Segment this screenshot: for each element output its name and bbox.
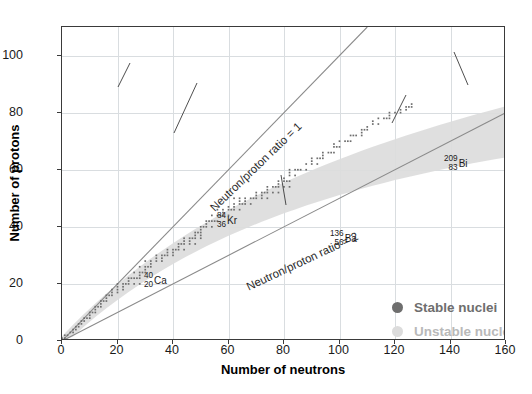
stable-nucleus-point [200, 235, 202, 237]
stable-nucleus-point [322, 152, 324, 154]
stable-nucleus-point [94, 306, 96, 308]
stable-nucleus-point [253, 197, 255, 199]
y-tick-label: 80 [9, 105, 23, 119]
stable-nucleus-point [97, 306, 99, 308]
stable-nucleus-point [156, 257, 158, 259]
stable-nucleus-point [214, 220, 216, 222]
stable-nucleus-point [283, 177, 285, 179]
stable-nucleus-point [261, 192, 263, 194]
annotation-ba: 136 56 Ba [330, 230, 357, 248]
stable-nucleus-point [189, 237, 191, 239]
plot-overlay [62, 27, 505, 340]
stable-nucleus-point [167, 255, 169, 257]
y-tick-mark [57, 112, 61, 113]
stable-nucleus-point [111, 289, 113, 291]
stable-nucleus-point [242, 203, 244, 205]
stable-nucleus-point [316, 157, 318, 159]
stable-nucleus-point [194, 235, 196, 237]
stable-nucleus-point [178, 243, 180, 245]
legend-label-stable: Stable nuclei [414, 300, 497, 315]
y-tick-mark [57, 226, 61, 227]
stable-nucleus-point [128, 283, 130, 285]
stable-nucleus-point [172, 249, 174, 251]
x-tick-mark [394, 340, 395, 344]
x-tick-mark [172, 340, 173, 344]
stable-nucleus-point [61, 337, 63, 339]
x-tick-label: 140 [439, 343, 460, 357]
stable-nucleus-point [361, 129, 363, 131]
stable-nucleus-point [133, 272, 135, 274]
x-tick-label: 0 [58, 343, 65, 357]
stable-nucleus-point [200, 229, 202, 231]
stable-nucleus-point [106, 294, 108, 296]
stable-nucleus-point [122, 286, 124, 288]
stable-nucleus-point [228, 206, 230, 208]
stable-nucleus-point [139, 275, 141, 277]
stable-nucleus-point [294, 169, 296, 171]
stable-nucleus-point [203, 226, 205, 228]
stable-nucleus-point [94, 309, 96, 311]
stable-nucleus-point [139, 283, 141, 285]
stable-nucleus-point [144, 266, 146, 268]
stable-nucleus-point [316, 163, 318, 165]
legend-label-unstable: Unstable nuclei [414, 324, 505, 339]
y-tick-label: 100 [2, 48, 23, 62]
stable-nucleus-point [117, 283, 119, 285]
stable-nucleus-point [117, 289, 119, 291]
x-tick-label: 40 [165, 343, 179, 357]
y-tick-mark [57, 283, 61, 284]
x-tick-mark [339, 340, 340, 344]
stable-nucleus-point [289, 175, 291, 177]
stable-nucleus-point [361, 135, 363, 137]
stable-nucleus-point [344, 140, 346, 142]
stable-nucleus-point [175, 249, 177, 251]
stable-nucleus-point [233, 197, 235, 199]
stable-nucleus-point [339, 146, 341, 148]
stable-nucleus-point [394, 112, 396, 114]
stable-nucleus-point [283, 180, 285, 182]
stable-nucleus-point [408, 106, 410, 108]
stable-nucleus-point [200, 237, 202, 239]
stable-nucleus-point [411, 103, 413, 105]
stable-nucleus-point [244, 197, 246, 199]
stable-nucleus-point [189, 243, 191, 245]
y-tick-label: 20 [9, 276, 23, 290]
stable-nucleus-point [264, 192, 266, 194]
stable-nucleus-point [139, 272, 141, 274]
stable-nucleus-point [389, 115, 391, 117]
stable-nucleus-point [156, 255, 158, 257]
x-tick-label: 20 [110, 343, 124, 357]
stable-nucleus-point [72, 332, 74, 334]
unstable-marker-icon [392, 326, 403, 337]
x-tick-mark [61, 340, 62, 344]
stable-nucleus-point [275, 186, 277, 188]
stable-nucleus-point [117, 292, 119, 294]
stable-marker-icon [392, 302, 403, 313]
leader-kr [174, 83, 197, 133]
stable-nucleus-point [180, 243, 182, 245]
stable-nucleus-point [128, 277, 130, 279]
stable-nucleus-point [328, 152, 330, 154]
stable-nucleus-point [278, 186, 280, 188]
stable-nucleus-point [67, 334, 69, 336]
stable-nucleus-point [233, 203, 235, 205]
legend: Stable nuclei Unstable nuclei [392, 295, 505, 340]
stable-nucleus-point [122, 283, 124, 285]
annotation-ca-numbers: 40 20 [144, 272, 153, 290]
stable-nucleus-point [72, 329, 74, 331]
stable-nucleus-point [255, 195, 257, 197]
stable-nucleus-point [161, 260, 163, 262]
annotation-ca: 40 20 Ca [144, 272, 167, 290]
stable-nucleus-point [278, 183, 280, 185]
stable-nucleus-point [333, 143, 335, 145]
stable-nucleus-point [250, 197, 252, 199]
stable-nucleus-point [372, 120, 374, 122]
y-axis-title: Number of protons [7, 125, 22, 242]
stable-nucleus-point [83, 320, 85, 322]
stable-nucleus-point [250, 203, 252, 205]
stable-nucleus-point [144, 260, 146, 262]
stable-nucleus-point [353, 135, 355, 137]
stable-nucleus-point [261, 197, 263, 199]
stable-nucleus-point [111, 294, 113, 296]
stable-nucleus-point [86, 317, 88, 319]
